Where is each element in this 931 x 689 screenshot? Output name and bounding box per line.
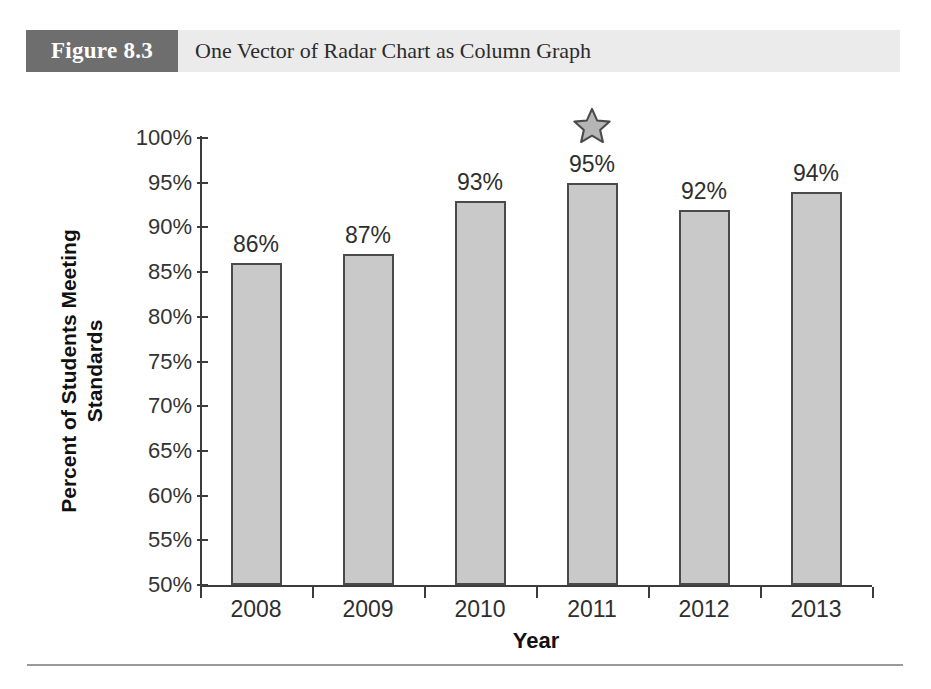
- y-axis-tick-mark: [197, 495, 208, 497]
- bar: [679, 210, 730, 585]
- x-axis-tick-mark: [648, 587, 650, 598]
- y-axis-title-line-1: Percent of Students Meeting: [56, 171, 82, 571]
- bar: [231, 263, 282, 585]
- y-axis-tick-label: 65%: [112, 438, 192, 464]
- x-axis-tick-label: 2013: [756, 596, 876, 623]
- x-axis-tick-mark: [872, 587, 874, 598]
- y-axis-tick-mark: [197, 450, 208, 452]
- x-axis-tick-label: 2008: [196, 596, 316, 623]
- y-axis-tick-label: 100%: [112, 125, 192, 151]
- x-axis-tick-label: 2011: [532, 596, 652, 623]
- y-axis-tick-mark: [197, 361, 208, 363]
- y-axis-tick-label: 55%: [112, 527, 192, 553]
- x-axis-tick-mark: [536, 587, 538, 598]
- x-axis-tick-label: 2010: [420, 596, 540, 623]
- y-axis-tick-label: 75%: [112, 349, 192, 375]
- y-axis-tick-mark: [197, 226, 208, 228]
- bar: [567, 183, 618, 585]
- figure-page: Figure 8.3 One Vector of Radar Chart as …: [0, 0, 931, 689]
- star-icon: [573, 107, 611, 143]
- y-axis-tick-mark: [197, 405, 208, 407]
- footer-rule: [27, 664, 903, 666]
- y-axis-tick-label: 95%: [112, 170, 192, 196]
- bar-value-label: 87%: [308, 222, 428, 249]
- bar-value-label: 92%: [644, 178, 764, 205]
- y-axis-tick-mark: [197, 539, 208, 541]
- x-axis-tick-mark: [200, 587, 202, 598]
- bar: [343, 254, 394, 585]
- y-axis-tick-mark: [197, 584, 208, 586]
- column-chart: 100%95%90%85%80%75%70%65%60%55%50% 20082…: [0, 0, 931, 660]
- bar-value-label: 93%: [420, 169, 540, 196]
- y-axis-tick-label: 50%: [112, 572, 192, 598]
- y-axis-tick-mark: [197, 316, 208, 318]
- bar: [455, 201, 506, 585]
- x-axis-tick-mark: [312, 587, 314, 598]
- x-axis-tick-label: 2009: [308, 596, 428, 623]
- y-axis-tick-label: 60%: [112, 483, 192, 509]
- bar: [791, 192, 842, 585]
- y-axis-tick-label: 80%: [112, 304, 192, 330]
- y-axis-tick-label: 85%: [112, 259, 192, 285]
- y-axis-tick-mark: [197, 182, 208, 184]
- y-axis-title: Percent of Students Meeting Standards: [56, 171, 108, 571]
- bar-value-label: 86%: [196, 231, 316, 258]
- bar-value-label: 94%: [756, 160, 876, 187]
- y-axis-tick-label: 70%: [112, 393, 192, 419]
- y-axis-tick-mark: [197, 137, 208, 139]
- x-axis-tick-mark: [760, 587, 762, 598]
- y-axis-title-line-2: Standards: [82, 171, 108, 571]
- x-axis-title: Year: [200, 628, 872, 654]
- y-axis-tick-label: 90%: [112, 214, 192, 240]
- y-axis-tick-mark: [197, 271, 208, 273]
- x-axis-title-text: Year: [513, 628, 560, 653]
- x-axis-tick-mark: [424, 587, 426, 598]
- x-axis-tick-label: 2012: [644, 596, 764, 623]
- bar-value-label: 95%: [532, 151, 652, 178]
